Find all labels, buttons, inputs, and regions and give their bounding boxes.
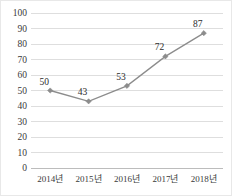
y-axis-tick-label: 0 — [22, 163, 27, 173]
y-axis-tick-label: 100 — [13, 8, 28, 18]
gridlines — [31, 13, 223, 168]
chart-canvas: 1009080706050403020100 2014년2015년2016년20… — [1, 1, 232, 196]
y-axis-tick-label: 40 — [18, 101, 28, 111]
line-chart: 1009080706050403020100 2014년2015년2016년20… — [0, 0, 232, 196]
y-axis-tick-label: 30 — [18, 117, 28, 127]
data-point-label: 50 — [39, 77, 49, 87]
y-axis-tick-label: 70 — [18, 55, 28, 65]
y-axis-tick-label: 80 — [18, 39, 28, 49]
data-point-label: 53 — [116, 72, 126, 82]
x-axis-tick-label: 2018년 — [191, 174, 217, 184]
x-axis-tick-label: 2014년 — [37, 174, 63, 184]
series-marker — [86, 99, 91, 104]
x-axis-tick-label: 2016년 — [114, 174, 140, 184]
data-point-label: 87 — [193, 19, 203, 29]
data-point-label: 72 — [155, 42, 165, 52]
series-markers — [48, 31, 207, 104]
y-axis-tick-labels: 1009080706050403020100 — [13, 8, 28, 173]
data-point-label: 43 — [78, 87, 88, 97]
y-axis-tick-label: 10 — [18, 148, 28, 158]
x-axis-tick-labels: 2014년2015년2016년2017년2018년 — [37, 174, 217, 184]
x-axis-tick-label: 2017년 — [152, 174, 178, 184]
y-axis-tick-label: 60 — [18, 70, 28, 80]
series-line — [50, 33, 204, 101]
data-point-labels: 5043537287 — [39, 19, 202, 97]
y-axis-tick-label: 20 — [18, 132, 28, 142]
x-axis-tick-label: 2015년 — [76, 174, 102, 184]
y-axis-tick-label: 50 — [18, 86, 28, 96]
y-axis-tick-label: 90 — [18, 24, 28, 34]
series-marker — [48, 88, 53, 93]
